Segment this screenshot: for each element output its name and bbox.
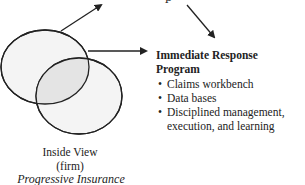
- arrow-up-right: [61, 5, 101, 31]
- bullet-item: •Data bases: [158, 91, 285, 105]
- arrow-down-right: [187, 5, 214, 37]
- bullet-item: •Claims workbench: [158, 77, 285, 91]
- inside-view-sublabel: (firm): [0, 159, 140, 173]
- program-title-line2: Program: [156, 62, 258, 76]
- bullet-icon: •: [158, 105, 162, 119]
- inside-view-label: Inside View: [0, 145, 140, 159]
- bullet-icon: •: [158, 91, 162, 105]
- program-bullet-list: •Claims workbench •Data bases •Disciplin…: [158, 77, 285, 133]
- bullet-item: •Disciplined management,: [158, 105, 285, 119]
- bullet-continuation: execution, and learning: [158, 119, 285, 133]
- bullet-icon: •: [158, 77, 162, 91]
- company-name: Progressive Insurance: [0, 172, 144, 185]
- cut-off-text-fragment: p: [165, 0, 172, 4]
- program-title-line1: Immediate Response: [156, 48, 258, 62]
- program-title: Immediate Response Program: [156, 48, 258, 76]
